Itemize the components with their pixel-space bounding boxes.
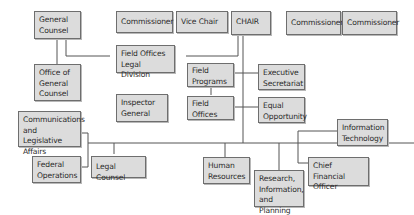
box-commissioner-1: Commissioner [116, 11, 173, 33]
box-vice-chair: Vice Chair [176, 11, 228, 33]
box-federal-operations: Federal Operations [32, 156, 81, 183]
box-inspector-general: Inspector General [116, 94, 168, 122]
box-chair: CHAIR [231, 11, 271, 35]
box-field-offices: Field Offices [187, 96, 234, 120]
box-legal-counsel: Legal Counsel [91, 156, 146, 178]
box-human-resources: Human Resources [203, 157, 250, 184]
box-general-counsel: General Counsel [34, 11, 81, 39]
box-field-offices-legal-division: Field Offices Legal Division [116, 45, 175, 73]
box-chief-financial-officer: Chief Financial Officer [308, 157, 369, 186]
box-research-information-planning: Research, Information, and Planning [254, 170, 304, 207]
box-equal-opportunity: Equal Opportunity [258, 97, 305, 123]
box-commissioner-2: Commissioner [286, 11, 341, 35]
box-office-of-general-counsel: Office of General Counsel [34, 64, 81, 101]
box-information-technology: Information Technology [337, 119, 388, 146]
box-commissioner-3: Commissioner [342, 11, 397, 35]
box-communications-legislative-affairs: Communications and Legislative Affairs [18, 111, 81, 147]
box-field-programs: Field Programs [187, 63, 234, 87]
box-executive-secretariat: Executive Secretariat [258, 64, 305, 90]
